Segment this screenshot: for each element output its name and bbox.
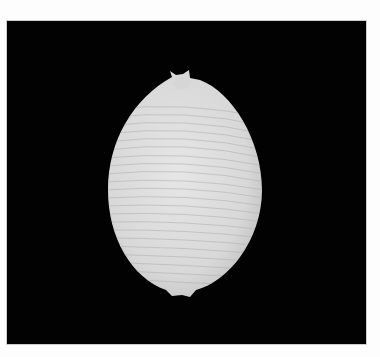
shell-illustration [0,0,380,357]
shell-apex [173,77,191,89]
